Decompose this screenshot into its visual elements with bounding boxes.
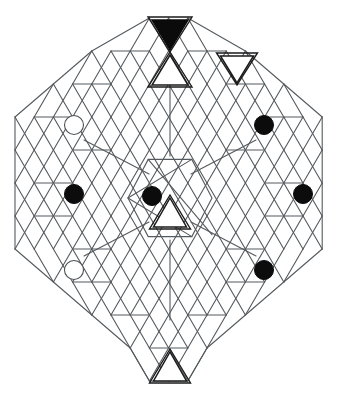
marker-lower-left[interactable] — [65, 261, 84, 280]
marker-upper-right[interactable] — [255, 116, 274, 135]
diagram-canvas — [0, 0, 339, 402]
marker-mid-left[interactable] — [65, 185, 84, 204]
marker-lower-right[interactable] — [255, 261, 274, 280]
marker-upper-left[interactable] — [65, 116, 84, 135]
geometric-diagram — [0, 0, 339, 402]
marker-center[interactable] — [143, 187, 162, 206]
marker-mid-right[interactable] — [294, 185, 313, 204]
